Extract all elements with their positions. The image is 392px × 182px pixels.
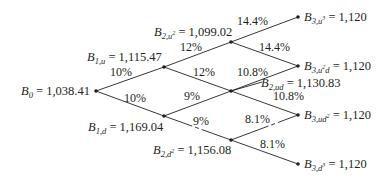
rate-b2uu-b3uuu: 14.4% xyxy=(237,14,268,28)
label-b3uud: B3,u2d = 1,120 xyxy=(304,59,371,77)
rate-b1u-b2ud: 12% xyxy=(193,65,215,79)
rate-b1u-b2uu: 12% xyxy=(180,40,202,54)
node-b0 xyxy=(94,89,98,93)
leader-b2ud-label xyxy=(231,82,262,91)
rate-b2uu-b3uud: 14.4% xyxy=(259,40,290,54)
label-b1d: B1,d = 1,169.04 xyxy=(88,120,163,138)
label-b3ddd: B3,d3 = 1,120 xyxy=(304,157,367,175)
rate-b1d-b2ud: 9% xyxy=(184,89,200,103)
rate-b2dd-b3udd: 8.1% xyxy=(245,112,270,126)
node-b3udd xyxy=(296,113,300,117)
node-b1d xyxy=(162,114,166,118)
label-b0: B0 = 1,038.41 xyxy=(21,84,90,102)
rate-b0-b1u: 10% xyxy=(110,65,132,79)
node-b2dd xyxy=(229,138,233,142)
rate-b0-b1d: 10% xyxy=(124,91,146,105)
node-b3uud xyxy=(296,64,300,68)
label-b2dd: B2,d2 = 1,156.08 xyxy=(153,143,231,161)
rate-b2ud-b3udd: 10.8% xyxy=(273,89,304,103)
node-b2ud xyxy=(229,89,233,93)
node-b1u xyxy=(162,65,166,69)
rate-b1d-b2dd: 9% xyxy=(193,114,209,128)
rate-b2ud-b3uud: 10.8% xyxy=(237,65,268,79)
label-b3uuu: B3,u3 = 1,120 xyxy=(304,10,367,28)
node-b3uuu xyxy=(296,15,300,19)
binomial-tree-diagram: B0 = 1,038.41 B1,u = 1,115.47 B1,d = 1,1… xyxy=(0,0,392,182)
label-b3udd: B3,ud2 = 1,120 xyxy=(304,108,371,126)
node-b3ddd xyxy=(296,162,300,166)
rate-b2dd-b3ddd: 8.1% xyxy=(260,137,285,151)
